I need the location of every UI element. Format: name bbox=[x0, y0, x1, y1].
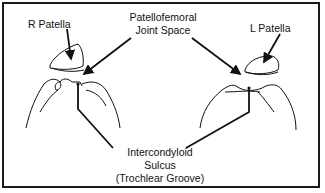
l-patella-pointer bbox=[264, 34, 280, 62]
joint-space-pointer-right bbox=[84, 38, 131, 74]
right-patella-shape bbox=[50, 44, 83, 69]
l-patella-label: L Patella bbox=[250, 22, 290, 35]
r-patella-pointer bbox=[67, 29, 71, 59]
sulcus-pointer-left bbox=[186, 88, 249, 148]
r-patella-label: R Patella bbox=[28, 18, 71, 31]
sulcus-label-line1: Intercondyloid bbox=[110, 146, 210, 159]
sulcus-label-line3: (Trochlear Groove) bbox=[104, 172, 216, 185]
left-patella-shape bbox=[245, 56, 279, 74]
sulcus-label-line2: Sulcus bbox=[110, 159, 210, 172]
joint-space-label-line2: Joint Space bbox=[122, 24, 204, 37]
right-lateral-condyle bbox=[26, 79, 72, 128]
joint-space-pointer-left bbox=[192, 38, 240, 74]
left-knee-drawing bbox=[200, 56, 296, 130]
joint-space-label-line1: Patellofemoral bbox=[122, 11, 204, 24]
